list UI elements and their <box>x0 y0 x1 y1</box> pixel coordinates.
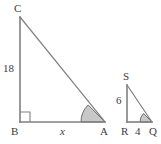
triangle-QRS <box>127 85 152 122</box>
vertex-label-R: R <box>121 126 128 137</box>
side-label-4: 4 <box>135 126 141 137</box>
side-label-18: 18 <box>3 63 14 74</box>
vertex-label-A: A <box>100 126 108 137</box>
angle-arc-Q <box>140 113 152 122</box>
side-label-6: 6 <box>116 95 122 106</box>
right-angle-marker-B <box>20 112 30 122</box>
side-label-x: x <box>60 126 65 137</box>
vertex-label-B: B <box>11 126 18 137</box>
vertex-label-Q: Q <box>149 126 157 137</box>
segment-CA <box>20 17 105 122</box>
segment-SQ <box>127 85 152 122</box>
vertex-label-S: S <box>123 71 129 82</box>
geometry-figure: C B A 18 x S R Q 6 4 <box>0 0 161 144</box>
triangle-ABC <box>20 17 105 122</box>
figure-canvas <box>0 0 161 144</box>
vertex-label-C: C <box>14 3 21 14</box>
